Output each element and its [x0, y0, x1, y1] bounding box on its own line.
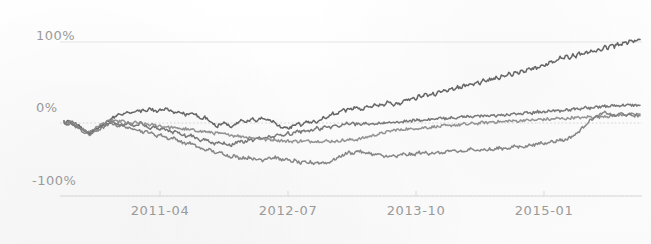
- data-series-group: [64, 39, 640, 164]
- x-axis-label-2012-07: 2012-07: [259, 203, 318, 218]
- x-axis-label-2015-01: 2015-01: [515, 203, 574, 218]
- y-axis-label-0: 0%: [36, 100, 58, 115]
- x-axis-label-2011-04: 2011-04: [131, 203, 190, 218]
- chart-container: 100% 0% -100% 2011-04 2012-07 2013-10 20…: [0, 0, 651, 244]
- y-axis-label-neg100: -100%: [32, 173, 76, 188]
- x-axis-label-2013-10: 2013-10: [387, 203, 446, 218]
- x-axis-ticks: [160, 191, 544, 196]
- series-line-series_3: [64, 113, 640, 143]
- x-axis-group: [60, 191, 642, 196]
- y-axis-label-100: 100%: [36, 28, 75, 43]
